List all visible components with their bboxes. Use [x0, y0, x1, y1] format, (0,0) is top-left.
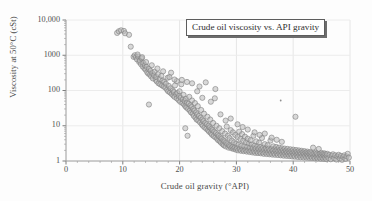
x-axis-title: Crude oil gravity (°API)	[60, 181, 350, 191]
y-tick-label: 1	[12, 156, 60, 165]
minor-tick-marks	[64, 22, 339, 163]
scatter-points	[115, 28, 352, 163]
x-tick-label: 50	[338, 165, 362, 174]
y-tick-label: 10	[12, 120, 60, 129]
x-tick-label: 0	[54, 165, 78, 174]
chart-figure: Viscosity at 50°C (cSt) 10,0001000100101…	[0, 0, 372, 201]
y-tick-label: 100	[12, 85, 60, 94]
x-tick-label: 20	[168, 165, 192, 174]
major-tick-marks	[63, 20, 351, 165]
y-tick-label: 10,000	[12, 15, 60, 24]
legend-box: Crude oil viscosity vs. API gravity	[186, 19, 325, 36]
y-tick-label: 1000	[12, 50, 60, 59]
x-tick-label: 10	[111, 165, 135, 174]
gridlines	[66, 20, 350, 161]
x-tick-label: 40	[281, 165, 305, 174]
x-tick-label: 30	[224, 165, 248, 174]
